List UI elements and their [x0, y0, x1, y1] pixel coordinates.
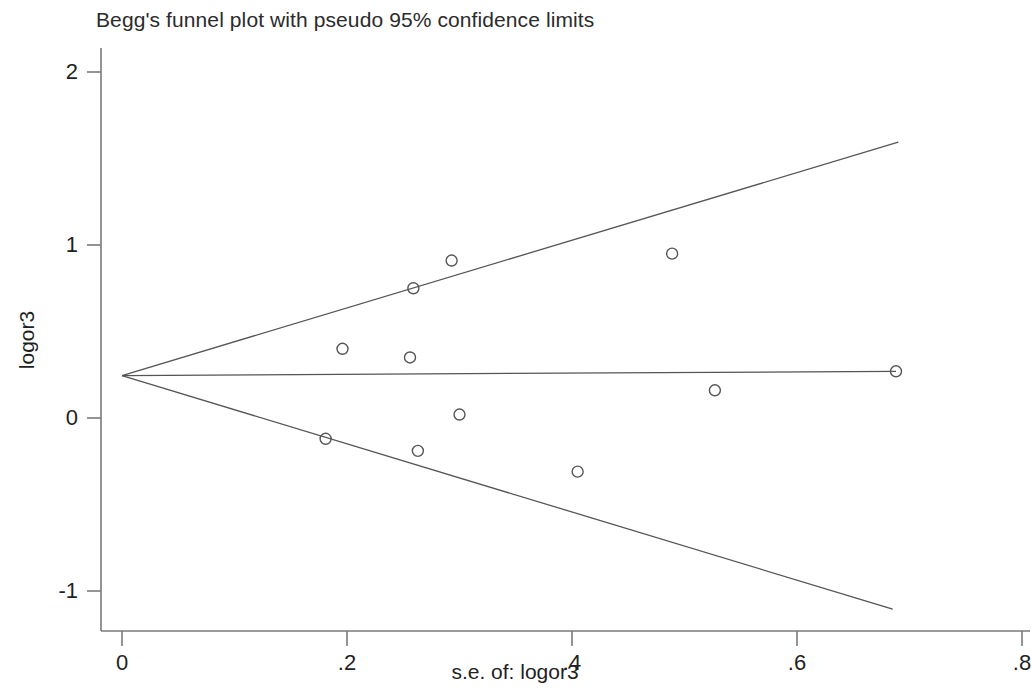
reference-lines	[122, 142, 898, 609]
data-point	[412, 445, 423, 456]
y-tick-marks	[87, 72, 101, 591]
data-point	[405, 352, 416, 363]
data-point	[446, 255, 457, 266]
data-points	[320, 248, 901, 477]
data-point	[454, 409, 465, 420]
x-tick-marks	[122, 631, 1022, 646]
y-axis-title: logor3	[15, 295, 39, 385]
data-point	[572, 466, 583, 477]
data-point	[667, 248, 678, 259]
upper-95-confidence-limit	[122, 142, 898, 376]
pooled-effect-line	[122, 371, 896, 375]
y-tick-label: 0	[30, 405, 78, 431]
y-tick-label: 1	[30, 232, 78, 258]
lower-95-confidence-limit	[122, 376, 893, 610]
x-axis-title: s.e. of: logor3	[0, 660, 1030, 684]
y-tick-label: -1	[30, 578, 78, 604]
data-point	[337, 343, 348, 354]
data-point	[709, 385, 720, 396]
y-tick-label: 2	[30, 59, 78, 85]
